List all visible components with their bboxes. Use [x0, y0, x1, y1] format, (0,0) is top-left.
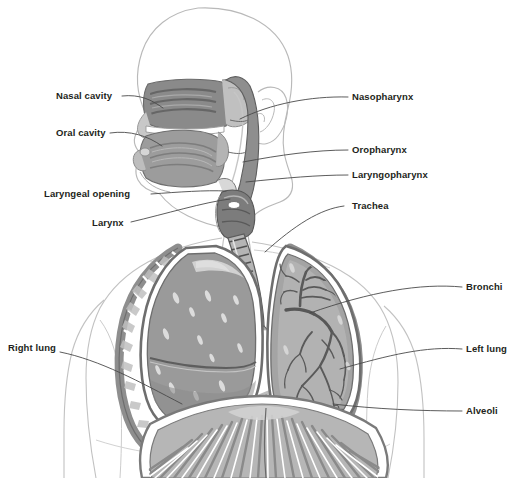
leader-trachea [265, 206, 344, 252]
label-nasopharynx: Nasopharynx [352, 91, 414, 102]
label-laryngopharynx: Laryngopharynx [352, 169, 428, 180]
leader-laryngopharynx [246, 175, 348, 182]
label-oral-cavity: Oral cavity [56, 127, 106, 138]
label-nasal-cavity: Nasal cavity [56, 90, 113, 101]
label-alveoli: Alveoli [466, 405, 498, 416]
leader-laryngeal-opening [151, 191, 226, 194]
diagram-canvas: Nasal cavity Oral cavity Laryngeal openi… [0, 0, 508, 478]
label-oropharynx: Oropharynx [352, 144, 407, 155]
label-right-lung: Right lung [8, 342, 56, 353]
label-bronchi: Bronchi [466, 281, 503, 292]
label-larynx: Larynx [92, 217, 124, 228]
respiratory-system-diagram: Nasal cavity Oral cavity Laryngeal openi… [0, 0, 508, 478]
nasal-cavity-region [137, 79, 254, 139]
label-laryngeal-opening: Laryngeal opening [44, 188, 130, 199]
label-left-lung: Left lung [466, 343, 507, 354]
oral-cavity-region [133, 130, 228, 192]
label-trachea: Trachea [352, 200, 389, 211]
larynx-region [216, 190, 255, 239]
